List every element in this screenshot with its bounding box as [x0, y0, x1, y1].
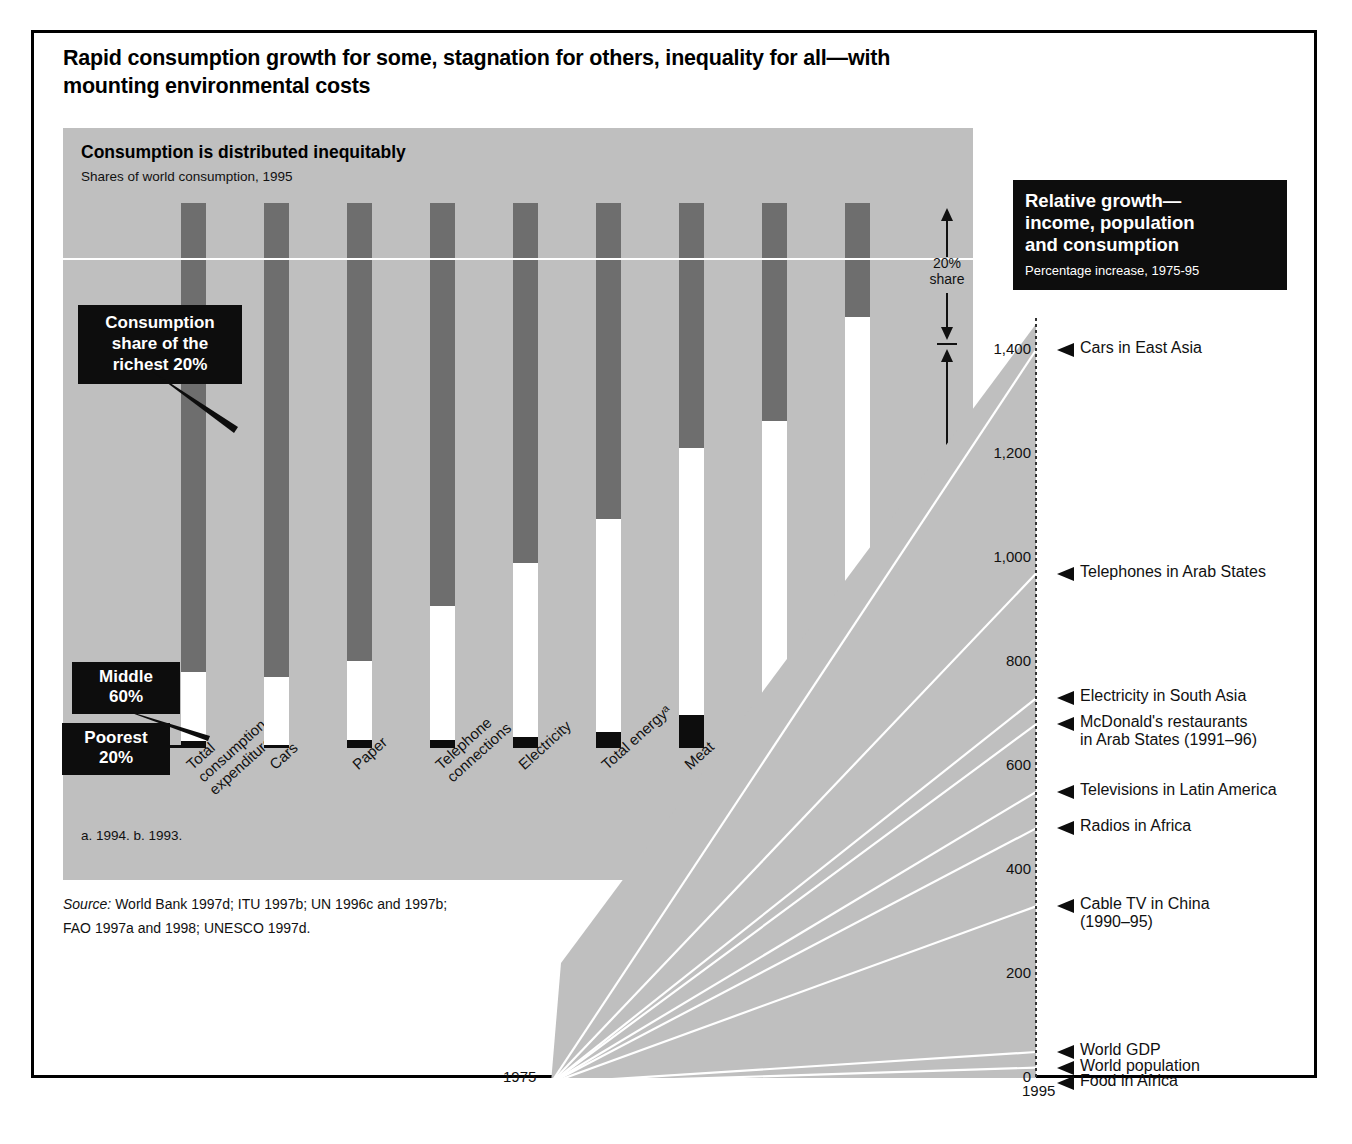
growth-label-text-9: Food in Africa — [1080, 1072, 1178, 1089]
page-root: Rapid consumption growth for some, stagn… — [0, 0, 1352, 1144]
stacked-bar-plot: Total consumption expenditureCarsPaperTe… — [181, 203, 951, 748]
growth-arrow-2 — [1057, 691, 1074, 705]
growth-label-1: Telephones in Arab States — [1080, 563, 1266, 581]
growth-arrow-7 — [1057, 1045, 1074, 1059]
bar-segment-middle — [596, 519, 621, 732]
bar-segment-middle — [762, 421, 787, 704]
bar-7 — [762, 203, 787, 748]
growth-arrow-6 — [1057, 899, 1074, 913]
figure-title: Rapid consumption growth for some, stagn… — [63, 44, 963, 100]
bar-segment-middle — [679, 448, 704, 715]
callout-poorest-pointer — [156, 745, 206, 748]
growth-label-0: Cars in East Asia — [1080, 339, 1202, 357]
bar-2 — [347, 203, 372, 748]
panel-heading: Consumption is distributed inequitably — [81, 142, 406, 163]
callout-poorest-text: Poorest 20% — [84, 728, 147, 767]
y-tick-200: 200 — [985, 964, 1031, 981]
bar-segment-middle — [264, 677, 289, 745]
bar-segment-richest — [513, 203, 538, 563]
bar-segment-richest — [264, 203, 289, 677]
bar-segment-richest — [347, 203, 372, 661]
share-label-top: 20% share — [917, 255, 977, 287]
source-line-1: World Bank 1997d; ITU 1997b; UN 1996c an… — [111, 896, 447, 912]
growth-label-text-8: World population — [1080, 1057, 1200, 1074]
bar-4 — [513, 203, 538, 748]
bar-5 — [596, 203, 621, 748]
callout-richest-text: Consumption share of the richest 20% — [105, 313, 215, 374]
growth-label-text-7: World GDP — [1080, 1041, 1161, 1058]
source-label: Source: — [63, 896, 111, 912]
growth-label-2: Electricity in South Asia — [1080, 687, 1246, 705]
bar-8 — [845, 203, 870, 748]
bar-segment-richest — [430, 203, 455, 606]
bar-segment-middle — [513, 563, 538, 737]
bar-segment-richest — [845, 203, 870, 317]
growth-panel-header: Relative growth— income, population and … — [1013, 180, 1287, 290]
callout-middle-text: Middle 60% — [99, 667, 153, 706]
growth-sublabel-text-6: (1990–95) — [1080, 913, 1153, 930]
growth-label-text-2: Electricity in South Asia — [1080, 687, 1246, 704]
bar-1 — [264, 203, 289, 748]
growth-label-5: Radios in Africa — [1080, 817, 1191, 835]
bar-segment-richest — [679, 203, 704, 448]
bar-segment-middle — [347, 661, 372, 740]
growth-arrow-5 — [1057, 821, 1074, 835]
callout-poorest: Poorest 20% — [62, 723, 170, 775]
callout-middle: Middle 60% — [72, 662, 180, 714]
growth-sublabel-text-3: in Arab States (1991–96) — [1080, 731, 1257, 748]
bar-segment-middle — [845, 317, 870, 617]
end-year-label: 1995 — [1022, 1082, 1055, 1099]
growth-label-4: Televisions in Latin America — [1080, 781, 1277, 799]
bar-3 — [430, 203, 455, 748]
growth-panel-title: Relative growth— income, population and … — [1025, 190, 1275, 256]
y-tick-1,200: 1,200 — [985, 444, 1031, 461]
growth-label-text-0: Cars in East Asia — [1080, 339, 1202, 356]
bar-0 — [181, 203, 206, 748]
share-label-mid: 60% share — [917, 463, 977, 495]
bar-segment-richest — [596, 203, 621, 519]
bar-segment-poorest — [845, 617, 870, 748]
share-label-bot: 20% share — [917, 700, 977, 732]
share-gridline — [63, 258, 973, 260]
bar-6 — [679, 203, 704, 748]
callout-richest-pointer — [150, 370, 280, 440]
growth-label-text-5: Radios in Africa — [1080, 817, 1191, 834]
bar-segment-middle — [430, 606, 455, 740]
growth-panel-subtitle: Percentage increase, 1975-95 — [1025, 263, 1275, 278]
source-line-2: FAO 1997a and 1998; UNESCO 1997d. — [63, 920, 311, 936]
growth-arrow-3 — [1057, 717, 1074, 731]
y-tick-1,400: 1,400 — [985, 340, 1031, 357]
growth-label-text-3: McDonald's restaurants — [1080, 713, 1248, 730]
y-tick-800: 800 — [985, 652, 1031, 669]
growth-arrow-9 — [1057, 1076, 1074, 1090]
source-note: Source: World Bank 1997d; ITU 1997b; UN … — [63, 892, 447, 940]
growth-y-axis — [1035, 318, 1037, 1078]
growth-label-text-6: Cable TV in China — [1080, 895, 1210, 912]
panel-subheading: Shares of world consumption, 1995 — [81, 169, 293, 184]
growth-label-text-1: Telephones in Arab States — [1080, 563, 1266, 580]
y-tick-400: 400 — [985, 860, 1031, 877]
growth-arrow-1 — [1057, 567, 1074, 581]
y-tick-600: 600 — [985, 756, 1031, 773]
growth-label-6: Cable TV in China(1990–95) — [1080, 895, 1210, 931]
chart-footnote: a. 1994. b. 1993. — [81, 828, 182, 843]
y-tick-1,000: 1,000 — [985, 548, 1031, 565]
growth-arrow-4 — [1057, 785, 1074, 799]
growth-label-text-4: Televisions in Latin America — [1080, 781, 1277, 798]
growth-arrow-8 — [1057, 1061, 1074, 1075]
growth-label-3: McDonald's restaurantsin Arab States (19… — [1080, 713, 1257, 749]
growth-arrow-0 — [1057, 343, 1074, 357]
start-year-label: 1975 — [503, 1068, 536, 1085]
bar-segment-richest — [762, 203, 787, 421]
growth-label-9: Food in Africa — [1080, 1072, 1178, 1090]
consumption-panel: Consumption is distributed inequitably S… — [63, 128, 973, 880]
